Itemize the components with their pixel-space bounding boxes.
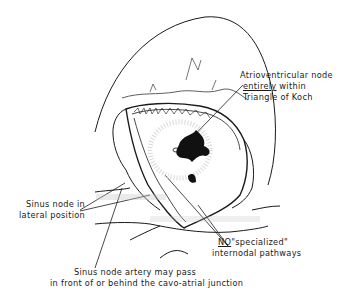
- sinus-line1: Sinus node in: [19, 199, 85, 210]
- artery-line1: Sinus node artery may pass: [50, 267, 243, 278]
- crista-terminalis: [122, 89, 248, 100]
- label-av-node: Atrioventricular node entirely within Tr…: [240, 70, 333, 103]
- internodal-line1: "specialized": [231, 237, 288, 247]
- atrium-rim: [126, 103, 247, 228]
- sinus-line2: lateral position: [19, 210, 85, 221]
- leader-internodal: [165, 175, 228, 246]
- internodal-line2: internodal pathways: [212, 248, 301, 259]
- label-artery: Sinus node artery may pass in front of o…: [50, 267, 243, 289]
- artery-line2: in front of or behind the cavo-atrial ju…: [50, 278, 243, 289]
- av-line1: Atrioventricular node: [240, 70, 333, 81]
- av-line3: Triangle of Koch: [240, 92, 333, 103]
- label-sinus-node: Sinus node in lateral position: [19, 199, 85, 221]
- ivc-line: [95, 223, 268, 233]
- svc-line: [95, 188, 130, 192]
- internodal-emphasis: NO: [218, 237, 231, 247]
- av-emphasis: entirely: [243, 81, 276, 91]
- av-line2: within: [276, 81, 306, 91]
- label-internodal: NO"specialized" internodal pathways: [212, 237, 301, 259]
